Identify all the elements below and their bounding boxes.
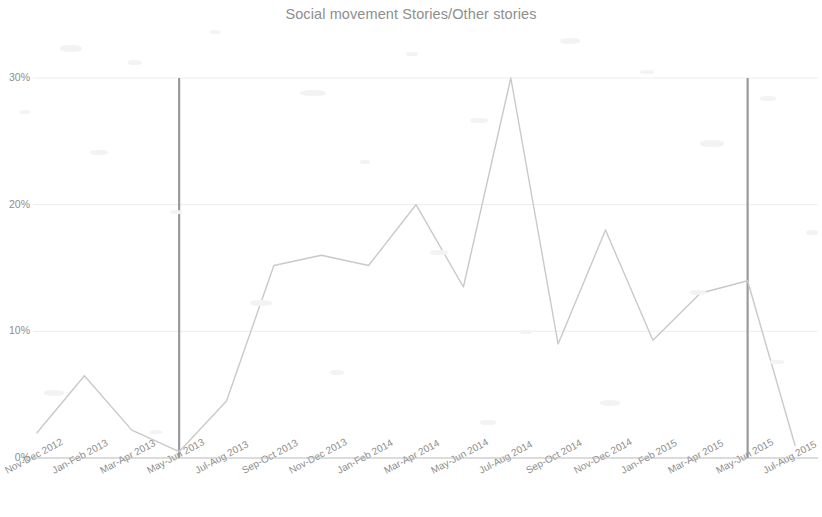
series-line-social-movement-stories-other-stories — [37, 78, 795, 452]
series-lines — [37, 78, 795, 452]
plot-area — [0, 0, 822, 517]
line-chart: Social movement Stories/Other stories 0%… — [0, 0, 822, 517]
marker-lines — [179, 78, 748, 458]
